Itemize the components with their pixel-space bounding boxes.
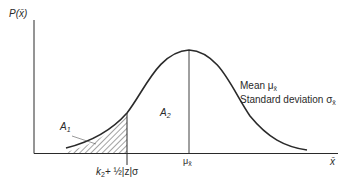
x-axis-label: x̄ (330, 157, 335, 167)
legend-mean: Mean μx̄ (240, 81, 277, 92)
area1-label: A1 (60, 122, 71, 133)
mean-tick-label: μx̄ (183, 157, 192, 167)
legend-standard-deviation: Standard deviation σx̄ (240, 95, 336, 106)
y-axis-label: P(x̄) (9, 9, 27, 19)
threshold-label: k2+ ½|z|σ (96, 167, 138, 178)
area2-label: A2 (160, 108, 171, 119)
